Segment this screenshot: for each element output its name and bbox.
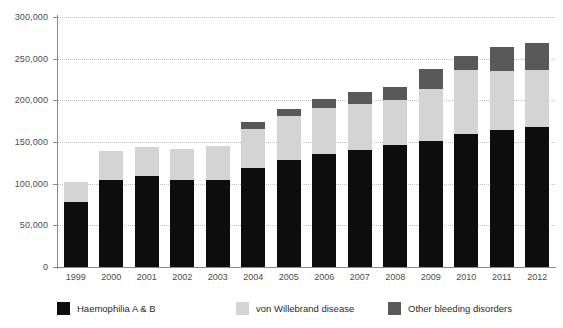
bar-segment bbox=[64, 202, 88, 267]
bar-segment bbox=[135, 147, 159, 176]
caption-strip bbox=[0, 320, 563, 328]
gridline bbox=[58, 184, 555, 185]
bar-segment bbox=[206, 146, 230, 180]
bar-segment bbox=[383, 87, 407, 100]
y-axis-tick-label: 200,000 bbox=[0, 95, 48, 105]
bar-segment bbox=[241, 129, 265, 168]
y-axis-tick-label: 250,000 bbox=[0, 54, 48, 64]
bar-segment bbox=[525, 70, 549, 127]
bar-segment bbox=[454, 56, 478, 70]
bar-segment bbox=[135, 176, 159, 267]
bar-segment bbox=[170, 180, 194, 267]
bar-segment bbox=[241, 168, 265, 267]
legend-label: Other bleeding disorders bbox=[408, 303, 512, 314]
bar-segment bbox=[206, 180, 230, 267]
gridline bbox=[58, 225, 555, 226]
bar-segment bbox=[277, 160, 301, 268]
bar-segment bbox=[525, 127, 549, 267]
bar-segment bbox=[419, 89, 443, 142]
bar-segment bbox=[383, 100, 407, 146]
bar-segment bbox=[312, 108, 336, 154]
y-axis-tick-label: 100,000 bbox=[0, 179, 48, 189]
bar-segment bbox=[490, 71, 514, 130]
plot-area bbox=[58, 17, 555, 267]
legend-swatch bbox=[57, 302, 70, 315]
bar-segment bbox=[454, 134, 478, 267]
y-axis-tick-label: 150,000 bbox=[0, 137, 48, 147]
bar-segment bbox=[419, 69, 443, 89]
legend-item[interactable]: Other bleeding disorders bbox=[388, 299, 512, 317]
x-axis-tick-label: 2012 bbox=[515, 272, 559, 282]
bar-segment bbox=[454, 70, 478, 133]
y-axis-tick-mark bbox=[53, 59, 58, 60]
y-axis-tick-label: 50,000 bbox=[0, 220, 48, 230]
y-axis-tick-label: 0 bbox=[0, 262, 48, 272]
gridline bbox=[58, 267, 555, 268]
bar-segment bbox=[348, 150, 372, 268]
legend-swatch bbox=[236, 302, 249, 315]
legend-swatch bbox=[388, 302, 401, 315]
bar-segment bbox=[419, 141, 443, 267]
y-axis-tick-mark bbox=[53, 184, 58, 185]
y-axis-tick-mark bbox=[53, 225, 58, 226]
y-axis-tick-mark bbox=[53, 142, 58, 143]
bar-segment bbox=[241, 122, 265, 129]
y-axis-tick-mark bbox=[53, 267, 58, 268]
gridline bbox=[58, 142, 555, 143]
legend-item[interactable]: von Willebrand disease bbox=[236, 299, 354, 317]
legend-label: von Willebrand disease bbox=[256, 303, 354, 314]
bar-segment bbox=[99, 180, 123, 268]
stacked-bar-chart: 050,000100,000150,000200,000250,000300,0… bbox=[0, 0, 563, 328]
bar-segment bbox=[277, 116, 301, 159]
legend-label: Haemophilia A & B bbox=[77, 303, 156, 314]
y-axis-tick-mark bbox=[53, 17, 58, 18]
bar-segment bbox=[348, 104, 372, 150]
gridline bbox=[58, 59, 555, 60]
legend-item[interactable]: Haemophilia A & B bbox=[57, 299, 156, 317]
bar-segment bbox=[312, 154, 336, 267]
gridline bbox=[58, 17, 555, 18]
y-axis-tick-mark bbox=[53, 100, 58, 101]
bar-segment bbox=[348, 92, 372, 104]
bar-segment bbox=[312, 99, 336, 108]
bar-segment bbox=[490, 130, 514, 267]
bar-segment bbox=[170, 149, 194, 181]
bar-segment bbox=[277, 109, 301, 117]
bar-segment bbox=[383, 145, 407, 267]
bar-segment bbox=[64, 182, 88, 202]
gridline bbox=[58, 100, 555, 101]
bar-segment bbox=[99, 151, 123, 179]
bar-segment bbox=[525, 43, 549, 71]
bar-segment bbox=[490, 47, 514, 71]
chart-legend: Haemophilia A & Bvon Willebrand diseaseO… bbox=[0, 299, 563, 317]
y-axis-tick-label: 300,000 bbox=[0, 12, 48, 22]
